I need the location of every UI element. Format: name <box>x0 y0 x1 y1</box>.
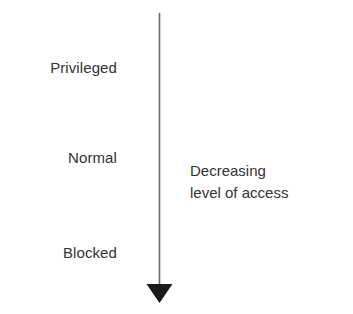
arrow-head <box>147 284 173 303</box>
tier-label-privileged: Privileged <box>0 59 117 77</box>
access-level-diagram: Privileged Normal Blocked Decreasing lev… <box>0 0 353 314</box>
downward-arrow-icon <box>140 6 180 308</box>
tier-label-normal: Normal <box>0 149 117 167</box>
annotation-line-1: Decreasing <box>190 160 345 182</box>
tier-label-blocked: Blocked <box>0 244 117 262</box>
arrow-annotation: Decreasing level of access <box>190 160 345 204</box>
annotation-line-2: level of access <box>190 182 345 204</box>
downward-arrow-graphic <box>140 6 180 308</box>
